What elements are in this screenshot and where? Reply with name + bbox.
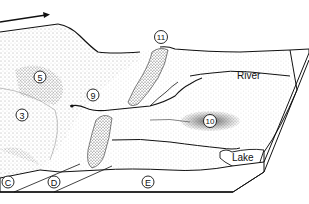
glacial-landform-block-diagram: 3 5 9 10 11 C D E River Lake <box>0 0 309 204</box>
svg-text:C: C <box>5 178 12 188</box>
svg-text:E: E <box>145 178 151 188</box>
label-5: 5 <box>34 71 46 83</box>
river-label: River <box>237 70 261 81</box>
svg-text:3: 3 <box>19 111 24 121</box>
label-D: D <box>48 176 60 188</box>
label-11: 11 <box>155 31 168 44</box>
label-E: E <box>142 176 154 188</box>
label-10: 10 <box>204 115 217 128</box>
svg-text:D: D <box>51 178 58 188</box>
lake-label: Lake <box>232 152 254 163</box>
svg-text:5: 5 <box>37 73 42 83</box>
svg-text:9: 9 <box>90 91 95 101</box>
label-C: C <box>2 176 14 188</box>
label-3: 3 <box>16 109 28 121</box>
svg-text:11: 11 <box>157 33 166 42</box>
label-9: 9 <box>87 89 99 101</box>
svg-text:10: 10 <box>206 117 215 126</box>
